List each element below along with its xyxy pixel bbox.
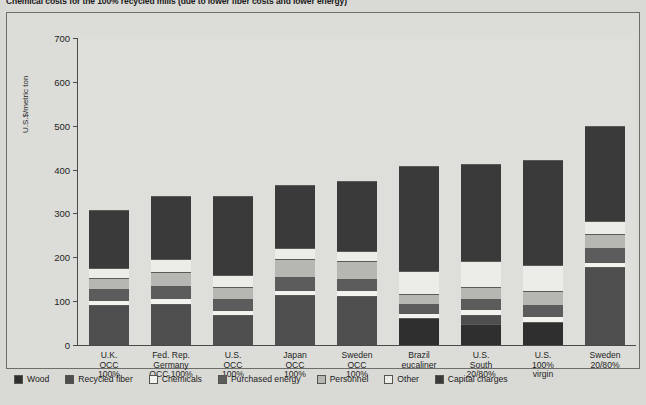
x-axis-label: Sweden 20/80% [575, 351, 635, 370]
bar-segment [461, 261, 501, 287]
y-axis-tick [73, 82, 78, 83]
bar-segment [151, 196, 191, 260]
y-axis-tick-label: 700 [54, 33, 70, 44]
bar-segment [523, 322, 563, 345]
bar-stack: Sweden OCC 100% [337, 181, 377, 345]
legend-swatch-icon [14, 375, 23, 384]
bar-stack: Japan OCC 100% [275, 185, 315, 345]
legend-label: Purchased energy [231, 374, 301, 384]
y-axis-title: U.S.$/metric ton [21, 23, 30, 133]
bar-segment [151, 304, 191, 345]
y-axis-tick [73, 345, 78, 346]
plot-area: 0100200300400500600700 U.K. OCC 100%Fed.… [77, 38, 636, 346]
bar-segment [585, 234, 625, 248]
bar-segment [523, 160, 563, 265]
bar-stack: Brazil eucaliner [399, 166, 439, 345]
bar-segment [151, 286, 191, 298]
bar-segment [461, 287, 501, 299]
bar-segment [461, 299, 501, 309]
bar-stack: Sweden 20/80% [585, 126, 625, 345]
legend-label: Personnel [330, 374, 369, 384]
bar-segment [275, 185, 315, 248]
y-axis-tick-label: 200 [54, 252, 70, 263]
bar-segment [337, 279, 377, 291]
bar-segment [151, 272, 191, 286]
legend-item[interactable]: Personnel [317, 374, 369, 384]
legend-swatch-icon [149, 375, 158, 384]
legend-item[interactable]: Capital charges [435, 374, 508, 384]
legend-label: Chemicals [162, 374, 202, 384]
bar-segment [337, 251, 377, 262]
legend-swatch-icon [435, 375, 444, 384]
bar-segment [213, 287, 253, 299]
y-axis-tick [73, 257, 78, 258]
bar-segment [213, 196, 253, 275]
legend-item[interactable]: Other [384, 374, 419, 384]
bar-segment [337, 261, 377, 279]
chart-frame: U.S.$/metric ton 0100200300400500600700 … [6, 12, 640, 369]
y-axis-tick [73, 213, 78, 214]
bar-segment [213, 315, 253, 345]
x-axis-label: Brazil eucaliner [389, 351, 449, 370]
legend-swatch-icon [317, 375, 326, 384]
bar-segment [275, 248, 315, 260]
bar-stack: U.K. OCC 100% [89, 210, 129, 345]
bar-segment [275, 295, 315, 345]
bar-segment [585, 221, 625, 233]
bar-segment [213, 299, 253, 310]
bar-segment [337, 181, 377, 251]
y-axis-tick-label: 100 [54, 296, 70, 307]
legend-swatch-icon [384, 375, 393, 384]
bar-segment [461, 324, 501, 345]
bar-segment [89, 210, 129, 268]
bar-segment [213, 275, 253, 287]
y-axis-tick [73, 301, 78, 302]
bar-segment [585, 248, 625, 262]
bar-stack: U.S. 100% virgin [523, 160, 563, 345]
legend-swatch-icon [218, 375, 227, 384]
y-axis-tick [73, 170, 78, 171]
bar-stack: U.S. South 20/80% [461, 164, 501, 345]
y-axis-tick [73, 38, 78, 39]
legend-label: Wood [27, 374, 49, 384]
legend-item[interactable]: Recycled fiber [65, 374, 132, 384]
bar-segment [89, 289, 129, 300]
bar-stack: U.S. OCC 100% [213, 196, 253, 345]
bar-segment [523, 265, 563, 291]
chart-page: Chemical costs for the 100% recycled mil… [0, 0, 646, 405]
chart-title: Chemical costs for the 100% recycled mil… [6, 0, 642, 6]
bar-segment [523, 291, 563, 305]
bar-segment [275, 259, 315, 277]
y-axis-tick-label: 0 [65, 340, 70, 351]
legend-label: Capital charges [448, 374, 508, 384]
legend-swatch-icon [65, 375, 74, 384]
legend-item[interactable]: Wood [14, 374, 49, 384]
bar-stack: Fed. Rep. Germany OCC 100% [151, 196, 191, 345]
bar-segment [89, 305, 129, 345]
chart-legend: WoodRecycled fiberChemicalsPurchased ene… [14, 374, 634, 384]
bar-segment [399, 271, 439, 294]
y-axis-tick-label: 300 [54, 208, 70, 219]
bar-segment [337, 296, 377, 345]
y-axis-tick-label: 500 [54, 120, 70, 131]
bar-segment [523, 305, 563, 316]
bar-segment [151, 259, 191, 271]
bar-segment [585, 267, 625, 345]
y-axis-tick [73, 126, 78, 127]
bar-segment [89, 268, 129, 278]
y-axis-tick-label: 600 [54, 76, 70, 87]
bar-segment [399, 304, 439, 313]
legend-item[interactable]: Chemicals [149, 374, 202, 384]
legend-label: Recycled fiber [78, 374, 132, 384]
bar-segment [585, 126, 625, 221]
bar-segment [275, 277, 315, 289]
bar-segment [399, 294, 439, 305]
bar-segment [461, 164, 501, 261]
y-axis-tick-label: 400 [54, 164, 70, 175]
legend-label: Other [397, 374, 419, 384]
bar-segment [461, 315, 501, 325]
bar-segment [89, 278, 129, 290]
legend-item[interactable]: Purchased energy [218, 374, 301, 384]
bar-segment [399, 166, 439, 271]
bar-segment [399, 318, 439, 345]
